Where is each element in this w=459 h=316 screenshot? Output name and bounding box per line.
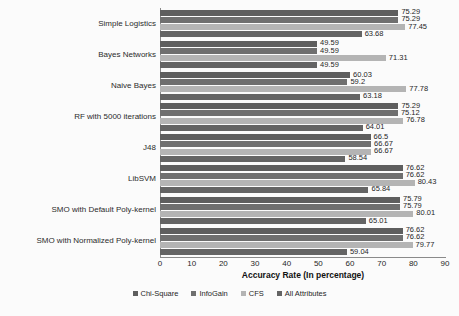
bar-all-attributes <box>160 125 363 131</box>
legend-item-chi-square[interactable]: Chi-Square <box>133 289 179 298</box>
bar-value-label: 80.43 <box>418 179 437 185</box>
bar-value-label: 49.59 <box>320 48 339 54</box>
bar-chi-square <box>160 134 371 140</box>
x-tick-label: 40 <box>282 259 291 268</box>
bar-all-attributes <box>160 94 360 100</box>
bar-chi-square <box>160 41 317 47</box>
bar-value-label: 65.01 <box>369 218 388 224</box>
category-label: RF with 5000 iterations <box>4 112 156 121</box>
category-label: SMO with Default Poly-kernel <box>4 205 156 214</box>
legend-swatch-icon <box>191 291 196 296</box>
bar-chart: Simple LogisticsBayes NetworksNaive Baye… <box>0 0 459 316</box>
plot-area: 75.2975.2977.4563.6849.5949.5971.3149.59… <box>160 8 445 257</box>
bar-chi-square <box>160 228 403 234</box>
bar-group: 75.2975.2977.4563.68 <box>160 8 445 39</box>
x-tick-label: 20 <box>219 259 228 268</box>
bar-value-label: 49.59 <box>320 62 339 68</box>
bar-cfs <box>160 149 371 155</box>
legend-item-all-attributes[interactable]: All Attributes <box>277 289 327 298</box>
bar-infogain <box>160 204 400 210</box>
category-label: SMO with Normalized Poly-kernel <box>4 236 156 245</box>
bar-all-attributes <box>160 31 362 37</box>
bar-all-attributes <box>160 62 317 68</box>
legend-label: CFS <box>249 289 264 298</box>
bar-chi-square <box>160 72 350 78</box>
bar-value-label: 59.2 <box>350 79 365 85</box>
bar-all-attributes <box>160 187 368 193</box>
bar-group: 76.6276.6280.4365.84 <box>160 164 445 195</box>
bar-value-label: 58.54 <box>348 155 367 161</box>
legend-label: Chi-Square <box>141 289 179 298</box>
category-label: Simple Logistics <box>4 19 156 28</box>
legend-item-cfs[interactable]: CFS <box>241 289 264 298</box>
category-label: LibSVM <box>4 174 156 183</box>
bar-value-label: 59.04 <box>350 249 369 255</box>
bar-group: 60.0359.277.7863.18 <box>160 70 445 101</box>
bar-group: 49.5949.5971.3149.59 <box>160 39 445 70</box>
bar-infogain <box>160 17 398 23</box>
bar-group: 76.6276.6279.7759.04 <box>160 226 445 257</box>
legend-swatch-icon <box>277 291 282 296</box>
bar-value-label: 77.45 <box>408 24 427 30</box>
legend-label: All Attributes <box>285 289 327 298</box>
bar-value-label: 77.78 <box>409 86 428 92</box>
x-tick-label: 70 <box>377 259 386 268</box>
x-tick-label: 50 <box>314 259 323 268</box>
legend-label: InfoGain <box>199 289 227 298</box>
category-label: Bayes Networks <box>4 50 156 59</box>
x-tick-label: 30 <box>251 259 260 268</box>
category-label: Naive Bayes <box>4 81 156 90</box>
bar-group: 75.7975.7980.0165.01 <box>160 195 445 226</box>
legend-item-infogain[interactable]: InfoGain <box>191 289 227 298</box>
bar-infogain <box>160 141 371 147</box>
bar-value-label: 63.68 <box>365 31 384 37</box>
bar-infogain <box>160 110 398 116</box>
x-tick-label: 10 <box>187 259 196 268</box>
bar-all-attributes <box>160 218 366 224</box>
bar-infogain <box>160 235 403 241</box>
bar-group: 75.2975.1276.7864.01 <box>160 101 445 132</box>
bar-chi-square <box>160 103 398 109</box>
bar-value-label: 76.78 <box>406 117 425 123</box>
bar-value-label: 80.01 <box>416 210 435 216</box>
bar-all-attributes <box>160 156 345 162</box>
bar-chi-square <box>160 10 398 16</box>
bar-value-label: 65.84 <box>371 186 390 192</box>
bar-chi-square <box>160 165 403 171</box>
x-axis-line <box>160 257 446 258</box>
bar-all-attributes <box>160 249 347 255</box>
bar-infogain <box>160 48 317 54</box>
legend-swatch-icon <box>133 291 138 296</box>
bar-infogain <box>160 173 403 179</box>
chart-legend: Chi-SquareInfoGainCFSAll Attributes <box>0 289 459 298</box>
category-label: J48 <box>4 143 156 152</box>
bar-value-label: 79.77 <box>416 242 435 248</box>
legend-swatch-icon <box>241 291 246 296</box>
bar-value-label: 71.31 <box>389 55 408 61</box>
x-axis-title: Accuracy Rate (In percentage) <box>160 270 446 280</box>
bar-group: 66.566.6766.6758.54 <box>160 133 445 164</box>
bar-infogain <box>160 79 347 85</box>
x-tick-label: 60 <box>346 259 355 268</box>
bar-chi-square <box>160 197 400 203</box>
bar-value-label: 66.67 <box>374 148 393 154</box>
bar-cfs <box>160 55 386 61</box>
x-tick-label: 80 <box>409 259 418 268</box>
category-axis-labels: Simple LogisticsBayes NetworksNaive Baye… <box>0 8 156 257</box>
bar-value-label: 63.18 <box>363 93 382 99</box>
bar-value-label: 64.01 <box>366 124 385 130</box>
x-tick-label: 0 <box>158 259 162 268</box>
x-tick-label: 90 <box>441 259 450 268</box>
bar-cfs <box>160 242 413 248</box>
